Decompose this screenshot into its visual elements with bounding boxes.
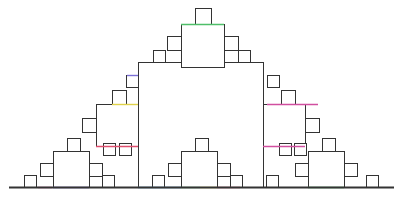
fractal-square-level-2 (306, 119, 320, 133)
fractal-square-level-2 (169, 164, 182, 177)
fractal-square-level-2 (280, 144, 292, 156)
fractal-square-level-1 (97, 105, 139, 147)
fractal-square-level-1 (54, 152, 90, 188)
fractal-figure: Square fractal (Pythagoras-style stepped… (0, 0, 399, 202)
fractal-square-level-2 (83, 119, 97, 133)
fractal-square-level-2 (267, 176, 279, 188)
fractal-square-level-2 (154, 51, 166, 63)
fractal-square-level-2 (282, 91, 296, 105)
fractal-square-level-2 (90, 164, 103, 177)
fractal-square-level-2 (231, 176, 243, 188)
fractal-square-level-2 (68, 139, 81, 152)
fractal-square-level-2 (25, 176, 37, 188)
fractal-square-level-2 (345, 164, 358, 177)
fractal-square-level-2 (196, 139, 209, 152)
fractal-square-level-2 (127, 76, 139, 88)
fractal-square-level-2 (196, 9, 212, 25)
fractal-square-level-2 (323, 139, 336, 152)
fractal-square-level-1 (309, 152, 345, 188)
fractal-square-level-2 (296, 164, 309, 177)
fractal-square-level-2 (168, 37, 182, 51)
fractal-square-level-2 (113, 91, 127, 105)
fractal-square-level-1 (182, 25, 225, 68)
fractal-square-level-2 (239, 51, 251, 63)
fractal-square-level-2 (41, 164, 54, 177)
fractal-square-level-2 (218, 164, 231, 177)
fractal-square-level-2 (295, 144, 307, 156)
fractal-square-level-2 (120, 144, 132, 156)
fractal-square-level-2 (104, 144, 116, 156)
fractal-square-level-2 (268, 76, 280, 88)
fractal-square-level-2 (153, 176, 165, 188)
fractal-canvas (0, 0, 399, 202)
fractal-square-level-2 (103, 176, 115, 188)
fractal-square-level-2 (367, 176, 379, 188)
fractal-square-level-2 (225, 37, 239, 51)
fractal-square-level-1 (264, 105, 306, 147)
fractal-square-level-1 (182, 152, 218, 188)
